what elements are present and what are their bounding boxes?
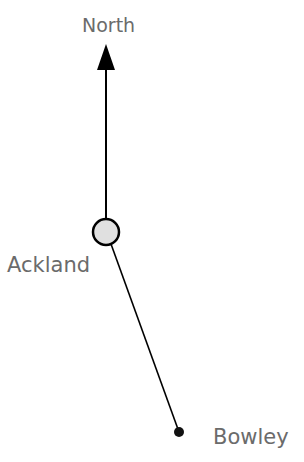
bowley-label: Bowley <box>213 425 289 449</box>
bearing-line <box>111 244 179 432</box>
bowley-point <box>174 427 184 437</box>
ackland-label: Ackland <box>7 253 90 277</box>
north-arrow-icon <box>97 44 115 70</box>
bearing-diagram <box>0 0 304 462</box>
ackland-point <box>93 219 119 245</box>
north-label: North <box>82 14 135 36</box>
